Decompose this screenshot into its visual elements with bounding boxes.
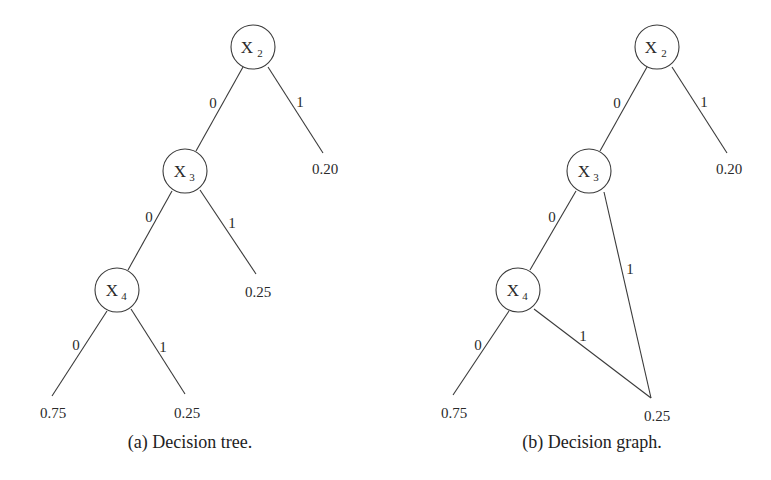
edge-x3-x4 xyxy=(128,191,172,270)
edge-label: 1 xyxy=(228,215,236,231)
svg-text:X: X xyxy=(578,162,590,181)
node-x3: X 3 xyxy=(567,149,611,193)
edge-label: 1 xyxy=(296,94,304,110)
leaf-value: 0.25 xyxy=(245,284,271,300)
edge-label: 1 xyxy=(159,339,167,355)
edge-label: 1 xyxy=(626,261,634,277)
svg-text:4: 4 xyxy=(121,290,127,302)
svg-text:3: 3 xyxy=(189,171,195,183)
edge-label: 0 xyxy=(548,209,556,225)
leaf-value: 0.75 xyxy=(441,405,467,421)
edge-label: 0 xyxy=(72,337,80,353)
edge-label: 1 xyxy=(700,94,708,110)
caption: (a) Decision tree. xyxy=(128,432,252,453)
leaf-value: 0.25 xyxy=(644,408,670,424)
edge-x2-leaf xyxy=(672,67,727,153)
svg-text:X: X xyxy=(507,281,519,300)
leaf-value: 0.20 xyxy=(312,161,338,177)
edge-label: 0 xyxy=(613,95,621,111)
node-x3: X 3 xyxy=(163,149,207,193)
edge-label: 0 xyxy=(145,209,153,225)
edge-label: 1 xyxy=(579,328,587,344)
decision-graph: X 2 X 3 X 4 0 1 0 1 0 1 0.20 0.75 0.25 (… xyxy=(441,25,742,453)
svg-text:X: X xyxy=(645,38,657,57)
edge-x3-leaf xyxy=(200,190,256,274)
svg-text:4: 4 xyxy=(522,290,528,302)
edge-x3-x4 xyxy=(530,191,576,270)
node-x4: X 4 xyxy=(496,268,540,312)
node-x4: X 4 xyxy=(95,268,139,312)
node-x2: X 2 xyxy=(635,25,679,69)
leaf-value: 0.20 xyxy=(716,161,742,177)
edge-x2-x3 xyxy=(196,67,243,151)
decision-tree: X 2 X 3 X 4 0 1 0 1 0 1 0.20 0.25 0.75 0… xyxy=(40,25,338,453)
node-x2: X 2 xyxy=(231,25,275,69)
caption: (b) Decision graph. xyxy=(522,432,661,453)
edge-x4-leaf-1 xyxy=(131,309,185,394)
svg-text:2: 2 xyxy=(661,47,667,59)
edge-x2-x3 xyxy=(600,67,647,151)
svg-text:2: 2 xyxy=(257,47,263,59)
svg-text:3: 3 xyxy=(593,171,599,183)
figure-canvas: X 2 X 3 X 4 0 1 0 1 0 1 0.20 0.25 0.75 0… xyxy=(0,0,771,480)
edge-x4-leaf-0 xyxy=(453,311,509,395)
edge-label: 0 xyxy=(209,95,217,111)
edge-x2-leaf xyxy=(268,67,323,153)
edge-label: 0 xyxy=(474,337,482,353)
leaf-value: 0.75 xyxy=(40,405,66,421)
svg-text:X: X xyxy=(106,281,118,300)
leaf-value: 0.25 xyxy=(174,405,200,421)
svg-text:X: X xyxy=(241,38,253,57)
edge-x4-leaf-0 xyxy=(52,311,107,396)
svg-text:X: X xyxy=(174,162,186,181)
